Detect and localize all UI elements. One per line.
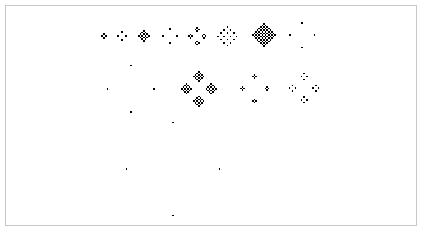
ca-shape-canvas [138, 30, 150, 42]
ca-shape-canvas [289, 73, 319, 103]
ca-cells [117, 31, 127, 41]
ca-shape-canvas [101, 33, 107, 39]
ca-cells [107, 65, 155, 113]
ca-shape-canvas [240, 74, 269, 103]
ca-shape-generation-8 [289, 22, 315, 48]
plot-area [6, 6, 418, 227]
ca-cells [240, 74, 269, 103]
ca-cells [181, 71, 217, 107]
ca-shape-generation-2 [117, 31, 127, 41]
ca-cells [289, 73, 319, 103]
ca-shape-generation-10 [289, 73, 319, 103]
ca-shape-generation-7 [252, 23, 276, 47]
ca-shape-generation-11 [181, 71, 217, 107]
figure-frame [5, 5, 417, 226]
ca-shape-generation-9 [240, 74, 269, 103]
ca-cells [101, 33, 107, 39]
ca-cells [289, 22, 315, 48]
ca-cells [217, 26, 238, 47]
ca-shape-canvas [107, 65, 155, 113]
ca-cells [252, 23, 276, 47]
ca-cells [188, 27, 207, 46]
ca-cells [162, 28, 178, 44]
ca-shape-canvas [188, 27, 207, 46]
ca-shape-canvas [217, 26, 238, 47]
ca-shape-generation-3 [138, 30, 150, 42]
ca-shape-canvas [289, 22, 315, 48]
ca-cells [126, 122, 220, 216]
ca-cells [138, 30, 150, 42]
ca-shape-canvas [252, 23, 276, 47]
figure-root [0, 0, 424, 233]
ca-shape-generation-6 [217, 26, 238, 47]
ca-shape-generation-4 [162, 28, 178, 44]
ca-shape-generation-5 [188, 27, 207, 46]
ca-shape-canvas [181, 71, 217, 107]
ca-shape-canvas [117, 31, 127, 41]
ca-shape-generation-16 [107, 65, 155, 113]
ca-shape-generation-1 [101, 33, 107, 39]
ca-shape-canvas [126, 122, 220, 216]
ca-shape-canvas [162, 28, 178, 44]
ca-shape-generation-32 [126, 122, 220, 216]
